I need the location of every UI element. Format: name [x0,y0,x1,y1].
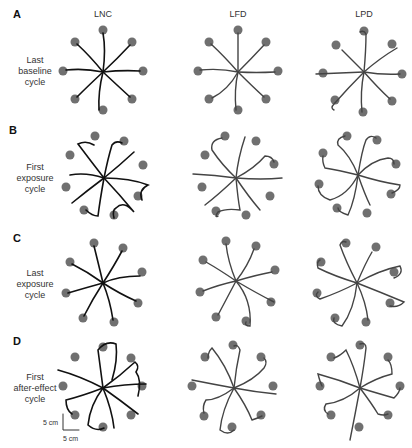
panel-d-lpd [316,341,405,441]
panel-b-lpd [315,132,401,218]
panel-a-lpd [316,27,407,117]
scale-bar-horizontal-label: 5 cm [63,435,78,442]
panel-b-lnc [62,132,149,220]
scale-bar-vertical-label: 5 cm [43,419,58,426]
trajectory-figure [0,0,412,448]
panel-a-lfd [194,26,283,115]
panel-d-lfd [188,341,278,434]
panel-c-lfd [196,237,280,327]
panel-c-lnc [62,239,147,327]
panel-d-lnc [58,343,147,432]
panel-b-lfd [193,132,282,220]
panel-a-lnc [59,26,148,115]
panel-c-lpd [313,239,405,327]
